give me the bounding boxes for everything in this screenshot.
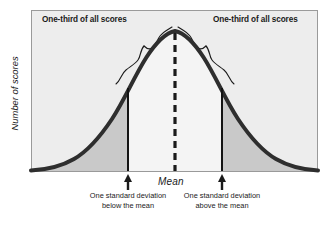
sd-below-arrow-icon bbox=[124, 174, 132, 190]
brace-label-right: One-third of all scores bbox=[213, 15, 298, 24]
brace-label-left: One-third of all scores bbox=[42, 15, 127, 24]
mean-label: Mean bbox=[158, 176, 184, 188]
sd-below-caption: One standard deviation below the mean bbox=[84, 191, 172, 211]
figure-canvas: One-third of all scores One-third of all… bbox=[0, 0, 332, 237]
sd-above-caption: One standard deviation above the mean bbox=[178, 191, 266, 211]
y-axis-label: Number of scores bbox=[10, 45, 21, 141]
sd-above-arrow-icon bbox=[218, 174, 226, 190]
